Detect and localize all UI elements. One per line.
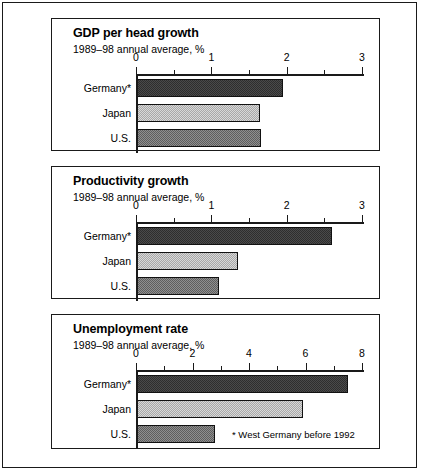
bar: [136, 400, 303, 418]
x-axis-tick-major: [211, 67, 212, 74]
bar: [136, 79, 283, 97]
x-axis-tick-label: 1: [208, 199, 214, 211]
x-axis-tick-label: 0: [133, 347, 139, 359]
x-axis-line: [136, 222, 364, 224]
category-label: Germany*: [52, 230, 131, 242]
y-axis-line: [136, 222, 138, 301]
x-axis-tick-major: [306, 363, 307, 370]
x-axis-tick-major: [362, 363, 363, 370]
x-axis-tick-minor: [324, 218, 325, 222]
category-label: Germany*: [52, 82, 131, 94]
category-label: Japan: [52, 255, 131, 267]
x-axis-line: [136, 370, 364, 372]
chart-panel-gdp-per-head-growth: GDP per head growth 1989–98 annual avera…: [51, 18, 380, 151]
x-axis-tick-label: 3: [359, 199, 365, 211]
x-axis-tick-label: 2: [284, 199, 290, 211]
x-axis-tick-label: 4: [246, 347, 252, 359]
x-axis-tick-minor: [164, 366, 165, 370]
x-axis-tick-major: [136, 67, 137, 74]
x-axis-tick-minor: [249, 218, 250, 222]
x-axis-tick-minor: [174, 70, 175, 74]
x-axis-tick-minor: [221, 366, 222, 370]
bar: [136, 425, 215, 443]
category-label: Germany*: [52, 378, 131, 390]
category-label: Japan: [52, 107, 131, 119]
x-axis-tick-major: [136, 215, 137, 222]
x-axis-tick-label: 0: [133, 199, 139, 211]
x-axis-tick-major: [287, 67, 288, 74]
category-label: U.S.: [52, 280, 131, 292]
y-axis-line: [136, 74, 138, 153]
plot-area: 0123Germany*JapanU.S.: [52, 167, 379, 298]
plot-area: 0123Germany*JapanU.S.: [52, 19, 379, 150]
bar: [136, 129, 261, 147]
x-axis-tick-minor: [249, 70, 250, 74]
bar: [136, 227, 332, 245]
x-axis-tick-minor: [277, 366, 278, 370]
x-axis-tick-label: 2: [190, 347, 196, 359]
x-axis-tick-minor: [324, 70, 325, 74]
x-axis-tick-major: [249, 363, 250, 370]
bar: [136, 252, 238, 270]
x-axis-line: [136, 74, 364, 76]
x-axis-tick-label: 6: [303, 347, 309, 359]
x-axis-tick-major: [193, 363, 194, 370]
category-label: U.S.: [52, 132, 131, 144]
x-axis-tick-major: [362, 67, 363, 74]
bar: [136, 375, 348, 393]
x-axis-tick-label: 2: [284, 51, 290, 63]
x-axis-tick-label: 3: [359, 51, 365, 63]
x-axis-tick-label: 1: [208, 51, 214, 63]
x-axis-tick-minor: [334, 366, 335, 370]
x-axis-tick-major: [136, 363, 137, 370]
x-axis-tick-label: 0: [133, 51, 139, 63]
chart-panel-productivity-growth: Productivity growth 1989–98 annual avera…: [51, 166, 380, 299]
y-axis-line: [136, 370, 138, 449]
x-axis-tick-label: 8: [359, 347, 365, 359]
category-label: Japan: [52, 403, 131, 415]
figure-frame: GDP per head growth 1989–98 annual avera…: [2, 2, 417, 468]
x-axis-tick-major: [211, 215, 212, 222]
chart-panel-unemployment-rate: Unemployment rate 1989–98 annual average…: [51, 314, 380, 449]
chart-footnote: * West Germany before 1992: [232, 429, 355, 440]
x-axis-tick-major: [362, 215, 363, 222]
x-axis-tick-major: [287, 215, 288, 222]
bar: [136, 277, 219, 295]
category-label: U.S.: [52, 428, 131, 440]
bar: [136, 104, 260, 122]
x-axis-tick-minor: [174, 218, 175, 222]
